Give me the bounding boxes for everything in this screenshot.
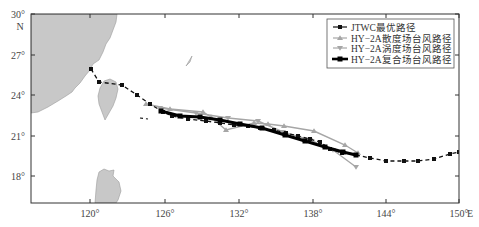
track-marker-square	[120, 83, 124, 87]
track-marker-square	[384, 159, 388, 163]
x-tick-label: 138°	[304, 208, 323, 219]
x-axis-unit-label: E	[467, 208, 473, 219]
track-marker-square	[283, 133, 288, 138]
track-marker-square	[416, 159, 420, 163]
legend-label: HY−2A散度场台风路径	[351, 33, 452, 44]
legend-label: JTWC最优路径	[351, 22, 416, 33]
track-marker-square	[260, 126, 265, 131]
track-marker-square	[341, 150, 346, 155]
track-marker-square	[178, 114, 183, 119]
track-marker-square	[198, 115, 203, 120]
x-tick-label: 132°	[230, 208, 249, 219]
legend-label: HY−2A涡度场台风路径	[351, 43, 452, 54]
land-small-island	[186, 56, 192, 66]
y-tick-label: 24°	[11, 90, 25, 101]
x-tick-label: 126°	[156, 208, 175, 219]
track-layer	[89, 67, 461, 170]
x-tick-label: 150°	[450, 208, 469, 219]
land-luzon	[95, 169, 121, 203]
track-marker-square	[354, 153, 359, 158]
y-tick-label: 18°	[11, 171, 25, 182]
track-marker-square	[135, 93, 139, 97]
legend-label: HY−2A复合场台风路径	[351, 54, 452, 65]
track-marker-down-triangle	[353, 165, 359, 170]
legend-item: HY−2A涡度场台风路径	[333, 43, 452, 54]
land-taiwan	[98, 79, 118, 120]
x-tick-label: 144°	[377, 208, 396, 219]
track-marker-square	[448, 152, 452, 156]
y-tick-label: 27°	[11, 50, 25, 61]
legend: JTWC最优路径HY−2A散度场台风路径HY−2A涡度场台风路径HY−2A复合场…	[327, 19, 454, 68]
track-marker-square	[303, 139, 308, 144]
legend-item: HY−2A散度场台风路径	[333, 33, 452, 44]
track-marker-square	[218, 118, 223, 123]
y-tick-label: 21°	[11, 131, 25, 142]
track-marker-square	[308, 137, 312, 141]
track-marker-square	[148, 102, 152, 106]
track-marker-square	[89, 67, 93, 71]
track-jtwc-best	[89, 67, 461, 163]
y-axis-unit-label: N	[16, 21, 23, 32]
y-tick-label: 30°	[11, 9, 25, 20]
track-marker-square	[323, 145, 328, 150]
typhoon-track-map: 30°27°24°21°18°N120°126°132°138°144°150°…	[0, 0, 479, 227]
legend-square-marker	[338, 25, 342, 29]
legend-square-marker	[338, 57, 343, 62]
x-tick-label: 120°	[81, 208, 100, 219]
track-marker-square	[159, 109, 164, 114]
track-marker-square	[318, 140, 322, 144]
track-marker-square	[368, 156, 372, 160]
track-marker-square	[97, 80, 101, 84]
track-marker-square	[432, 157, 436, 161]
track-marker-square	[238, 122, 243, 127]
track-marker-square	[402, 159, 406, 163]
